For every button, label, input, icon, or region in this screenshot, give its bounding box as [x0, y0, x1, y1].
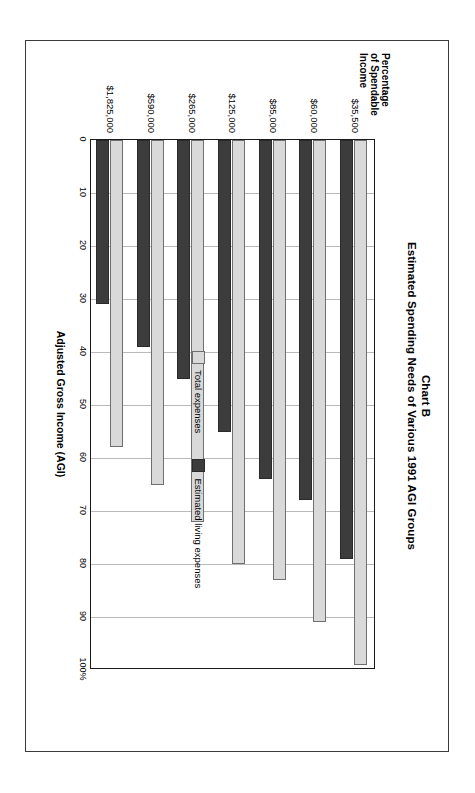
category-label: $60,000	[309, 23, 319, 133]
tick-label: 90	[78, 611, 88, 621]
category-label: $265,000	[187, 23, 197, 133]
tick-label: 60	[78, 452, 88, 462]
bar-total-expenses	[110, 140, 123, 447]
chart: Chart B Estimated Spending Needs of Vari…	[37, 51, 437, 741]
tick-label: 40	[78, 346, 88, 356]
bar-total-expenses	[151, 140, 164, 485]
category-label: $590,000	[146, 23, 156, 133]
bar-living-expenses	[137, 140, 150, 347]
tick-label: 0	[78, 136, 88, 141]
rotated-chart-container: Chart B Estimated Spending Needs of Vari…	[37, 51, 437, 741]
bar-total-expenses	[232, 140, 245, 564]
category-label: $1,825,000	[105, 23, 115, 133]
chart-title-line: Chart B	[419, 51, 433, 741]
legend-label-living-expenses: Estimated living expenses	[193, 478, 204, 588]
legend-item-living-expenses: Estimated living expenses	[192, 459, 205, 588]
bar-living-expenses	[259, 140, 272, 479]
tick-label: 100%	[78, 657, 88, 680]
bar-total-expenses	[273, 140, 286, 580]
bar-living-expenses	[299, 140, 312, 500]
bar-living-expenses	[218, 140, 231, 432]
chart-legend: Total expenses Estimated living expenses	[192, 351, 205, 588]
y-axis-title-line-1: Percentage	[380, 53, 391, 141]
chart-subtitle-line: Estimated Spending Needs of Various 1991…	[405, 51, 419, 741]
tick-label: 70	[78, 505, 88, 515]
x-axis-title: Adjusted Gross Income (AGI)	[55, 139, 67, 669]
bar-living-expenses	[96, 140, 109, 304]
legend-swatch-living-expenses	[192, 459, 205, 472]
legend-item-total-expenses: Total expenses	[192, 351, 205, 433]
tick-label: 80	[78, 558, 88, 568]
bar-living-expenses	[340, 140, 353, 559]
tick-label: 50	[78, 399, 88, 409]
legend-label-total-expenses: Total expenses	[193, 370, 204, 433]
plot-area	[90, 139, 375, 669]
scanned-page-frame: Chart B Estimated Spending Needs of Vari…	[25, 40, 449, 752]
bar-total-expenses	[354, 140, 367, 665]
y-axis-title: Percentage of Spendable Income	[358, 53, 391, 141]
tick-label: 20	[78, 240, 88, 250]
chart-title: Chart B Estimated Spending Needs of Vari…	[405, 51, 433, 741]
y-axis-title-line-2: of Spendable	[369, 53, 380, 141]
legend-swatch-total-expenses	[192, 351, 205, 364]
gridline	[91, 564, 374, 565]
gridline	[91, 617, 374, 618]
tick-label: 10	[78, 187, 88, 197]
tick-label: 30	[78, 293, 88, 303]
category-label: $85,000	[268, 23, 278, 133]
bar-living-expenses	[177, 140, 190, 379]
bar-total-expenses	[313, 140, 326, 622]
category-label: $125,000	[228, 23, 238, 133]
category-label: $35,500	[350, 23, 360, 133]
